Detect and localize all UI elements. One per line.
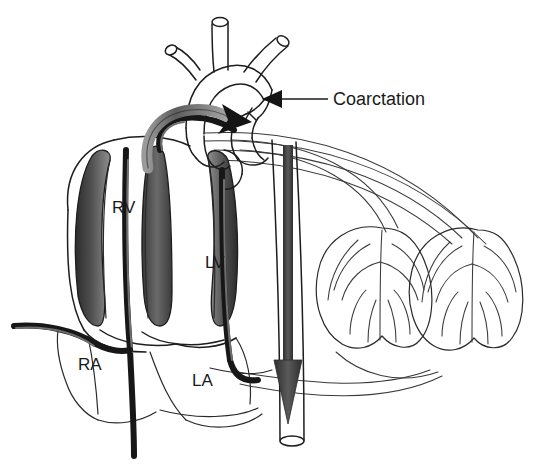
coarctation-diagram: Coarctation RV LV RA LA <box>0 0 551 466</box>
label-lv: LV <box>205 253 225 272</box>
left-carotid-cut-end <box>212 18 228 27</box>
label-ra: RA <box>78 355 102 374</box>
heart-coarctation-illustration: Coarctation RV LV RA LA <box>0 0 551 466</box>
label-la: LA <box>192 371 213 390</box>
label-rv: RV <box>112 198 136 217</box>
descending-aorta-cut-end <box>280 436 304 446</box>
coarctation-label: Coarctation <box>333 89 425 109</box>
